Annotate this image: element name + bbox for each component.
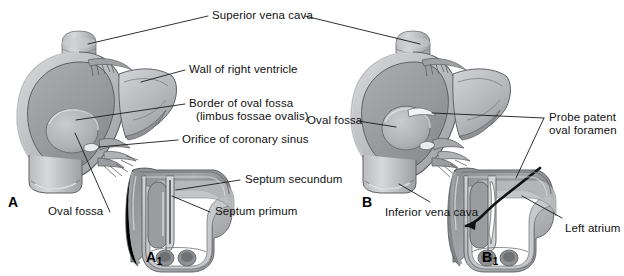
panel-a-inferior-vena-cava (29, 155, 82, 193)
leader-superior-vena-cava-right (305, 16, 420, 44)
leader-septum-primum (172, 196, 210, 212)
label-probe-patent-line2: oval foramen (549, 124, 617, 137)
label-limbus-fossae-ovalis: (limbus fossae ovalis) (196, 110, 309, 123)
panel-b-heart-illustration (351, 31, 510, 193)
panel-letter-a1: A1 (146, 249, 162, 265)
panel-a-right-ventricle-wall (119, 69, 177, 140)
panel-letter-a: A (8, 194, 18, 210)
panel-a1-septum-secundum (148, 182, 168, 248)
label-septum-secundum: Septum secundum (245, 173, 342, 186)
leader-superior-vena-cava-left (88, 16, 208, 44)
label-oval-fossa-panel-a: Oval fossa (48, 205, 103, 218)
panel-letter-b1: B1 (482, 249, 498, 265)
label-wall-of-right-ventricle: Wall of right ventricle (189, 63, 298, 76)
panel-letter-a-text: A (8, 194, 18, 210)
label-border-of-oval-fossa: Border of oval fossa (189, 97, 293, 110)
panel-b-right-ventricle-wall (453, 69, 511, 140)
anatomy-figure: Superior vena cava Wall of right ventric… (0, 0, 624, 276)
label-inferior-vena-cava: Inferior vena cava (385, 206, 478, 219)
label-septum-primum: Septum primum (215, 205, 297, 218)
panel-letter-b: B (362, 194, 372, 210)
illustration-artwork (0, 0, 624, 276)
panel-letter-a1-sub: 1 (157, 256, 163, 267)
panel-letter-b-text: B (362, 194, 372, 210)
label-left-atrium: Left atrium (565, 222, 620, 235)
panel-letter-b1-text: B (482, 249, 492, 265)
panel-letter-b1-sub: 1 (493, 256, 499, 267)
label-oval-fossa-panel-b: Oval fossa (307, 114, 362, 127)
label-probe-patent-line1: Probe patent (549, 111, 616, 124)
panel-b1-vessel-openings (472, 248, 528, 267)
panel-letter-a1-text: A (146, 249, 156, 265)
panel-b-inferior-vena-cava (363, 155, 416, 193)
panel-b1-inset-illustration (448, 168, 556, 272)
panel-a-superior-vena-cava (62, 31, 96, 54)
label-orifice-of-coronary-sinus: Orifice of coronary sinus (182, 133, 309, 146)
label-superior-vena-cava: Superior vena cava (212, 9, 313, 22)
